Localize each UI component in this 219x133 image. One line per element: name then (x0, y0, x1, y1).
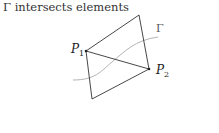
gamma-curve (73, 37, 158, 80)
label-gamma: Γ (156, 22, 164, 35)
label-p2: P2 (155, 63, 169, 79)
point-p1 (85, 50, 88, 53)
diagram-canvas: P1 P2 Γ (0, 0, 219, 133)
label-p1: P1 (70, 42, 84, 58)
point-p2 (148, 68, 151, 71)
